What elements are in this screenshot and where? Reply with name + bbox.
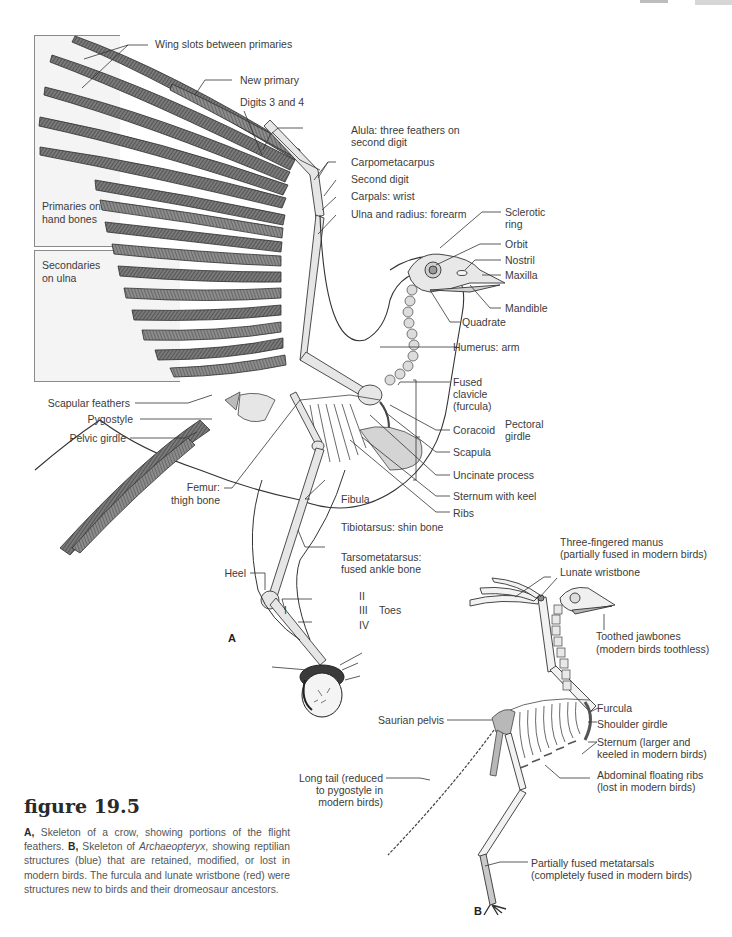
archaeopteryx-skull bbox=[560, 587, 615, 614]
label-pelvic-girdle: Pelvic girdle bbox=[50, 432, 126, 445]
label-second-digit: Second digit bbox=[351, 173, 409, 186]
label-toe-I: I bbox=[284, 604, 287, 617]
label-humerus: Humerus: arm bbox=[453, 341, 520, 354]
label-uncinate-process: Uncinate process bbox=[453, 469, 534, 482]
crow-foot-perch bbox=[300, 665, 344, 717]
label-manus-2: (partially fused in modern birds) bbox=[560, 548, 707, 561]
label-sclerotic-ring-1: Sclerotic bbox=[505, 206, 545, 219]
label-fused-clavicle-1: Fused bbox=[453, 376, 482, 389]
label-wing-slots: Wing slots between primaries bbox=[155, 38, 292, 51]
label-sclerotic-ring-2: ring bbox=[505, 218, 523, 231]
label-lunate-wristbone: Lunate wristbone bbox=[560, 566, 640, 579]
label-long-tail-2: to pygostyle in bbox=[290, 784, 383, 797]
label-quadrate: Quadrate bbox=[462, 316, 506, 329]
label-fused-clavicle-2: clavicle bbox=[453, 388, 487, 401]
label-carpals: Carpals: wrist bbox=[351, 190, 415, 203]
label-pygostyle: Pygostyle bbox=[60, 413, 133, 426]
label-new-primary: New primary bbox=[240, 74, 299, 87]
label-abdominal-ribs-1: Abdominal floating ribs bbox=[597, 769, 703, 782]
label-fibula: Fibula bbox=[341, 493, 370, 506]
label-abdominal-ribs-2: (lost in modern birds) bbox=[597, 781, 696, 794]
label-mandible: Mandible bbox=[505, 302, 548, 315]
leader-lines-a bbox=[82, 45, 501, 680]
caption-text-b-pre: Skeleton of bbox=[78, 841, 139, 852]
label-long-tail-3: modern birds) bbox=[290, 796, 383, 809]
panel-letter-b: B bbox=[474, 905, 482, 917]
label-tibiotarsus: Tibiotarsus: shin bone bbox=[341, 521, 443, 534]
label-saurian-pelvis: Saurian pelvis bbox=[360, 714, 444, 727]
label-femur-1: Femur: bbox=[160, 481, 220, 494]
archaeopteryx-tail bbox=[388, 730, 494, 855]
label-ulna-radius: Ulna and radius: forearm bbox=[351, 208, 467, 221]
label-furcula: Furcula bbox=[597, 702, 632, 715]
caption-marker-b: B, bbox=[68, 841, 78, 852]
label-sternum-keel: Sternum with keel bbox=[453, 490, 536, 503]
label-sternum-b-1: Sternum (larger and bbox=[597, 736, 690, 749]
label-scapular-feathers: Scapular feathers bbox=[44, 397, 130, 410]
label-toes: Toes bbox=[379, 604, 401, 617]
archaeopteryx-ribcage bbox=[505, 699, 591, 758]
label-alula-2: second digit bbox=[351, 136, 407, 149]
crow-pelvis bbox=[225, 392, 275, 422]
label-nostril: Nostril bbox=[505, 254, 535, 267]
label-sternum-b-2: keeled in modern birds) bbox=[597, 748, 707, 761]
label-toe-III: III bbox=[359, 604, 368, 617]
label-tarsometatarsus-1: Tarsometatarsus: bbox=[341, 551, 422, 564]
label-metatarsals-2: (completely fused in modern birds) bbox=[531, 869, 692, 882]
label-tarsometatarsus-2: fused ankle bone bbox=[341, 563, 421, 576]
label-secondaries-box: Secondaries on ulna bbox=[42, 259, 100, 284]
panel-letter-a: A bbox=[228, 632, 236, 644]
label-heel: Heel bbox=[200, 567, 246, 580]
textbook-page: Wing slots between primaries New primary… bbox=[0, 0, 732, 937]
label-pectoral-girdle-1: Pectoral bbox=[505, 418, 544, 431]
label-primaries-box: Primaries on hand bones bbox=[42, 200, 101, 225]
caption-genus: Archaeopteryx bbox=[139, 841, 205, 852]
label-alula-1: Alula: three feathers on bbox=[351, 124, 460, 137]
label-digits-3-4: Digits 3 and 4 bbox=[240, 96, 304, 109]
label-orbit: Orbit bbox=[505, 238, 528, 251]
label-toothed-jawbones-1: Toothed jawbones bbox=[596, 630, 681, 643]
label-manus-1: Three-fingered manus bbox=[560, 536, 663, 549]
figure-title: figure 19.5 bbox=[24, 795, 140, 817]
label-shoulder-girdle: Shoulder girdle bbox=[597, 718, 668, 731]
label-ribs: Ribs bbox=[453, 507, 474, 520]
caption-marker-a: A, bbox=[24, 827, 34, 838]
figure-caption: A, Skeleton of a crow, showing portions … bbox=[24, 826, 290, 897]
label-toothed-jawbones-2: (modern birds toothless) bbox=[596, 643, 709, 656]
crow-leg bbox=[261, 392, 326, 665]
label-femur-2: thigh bone bbox=[160, 494, 220, 507]
archaeopteryx-leg bbox=[478, 733, 526, 915]
label-maxilla: Maxilla bbox=[505, 269, 538, 282]
label-carpometacarpus: Carpometacarpus bbox=[351, 156, 434, 169]
label-toe-IV: IV bbox=[359, 619, 369, 632]
label-fused-clavicle-3: (furcula) bbox=[453, 400, 492, 413]
label-metatarsals-1: Partially fused metatarsals bbox=[531, 857, 654, 870]
label-scapula: Scapula bbox=[453, 446, 491, 459]
label-long-tail-1: Long tail (reduced bbox=[290, 772, 383, 785]
label-toe-II: II bbox=[359, 590, 365, 603]
label-pectoral-girdle-2: girdle bbox=[505, 430, 531, 443]
crow-leg-outline bbox=[252, 470, 345, 640]
label-coracoid: Coracoid bbox=[453, 424, 495, 437]
